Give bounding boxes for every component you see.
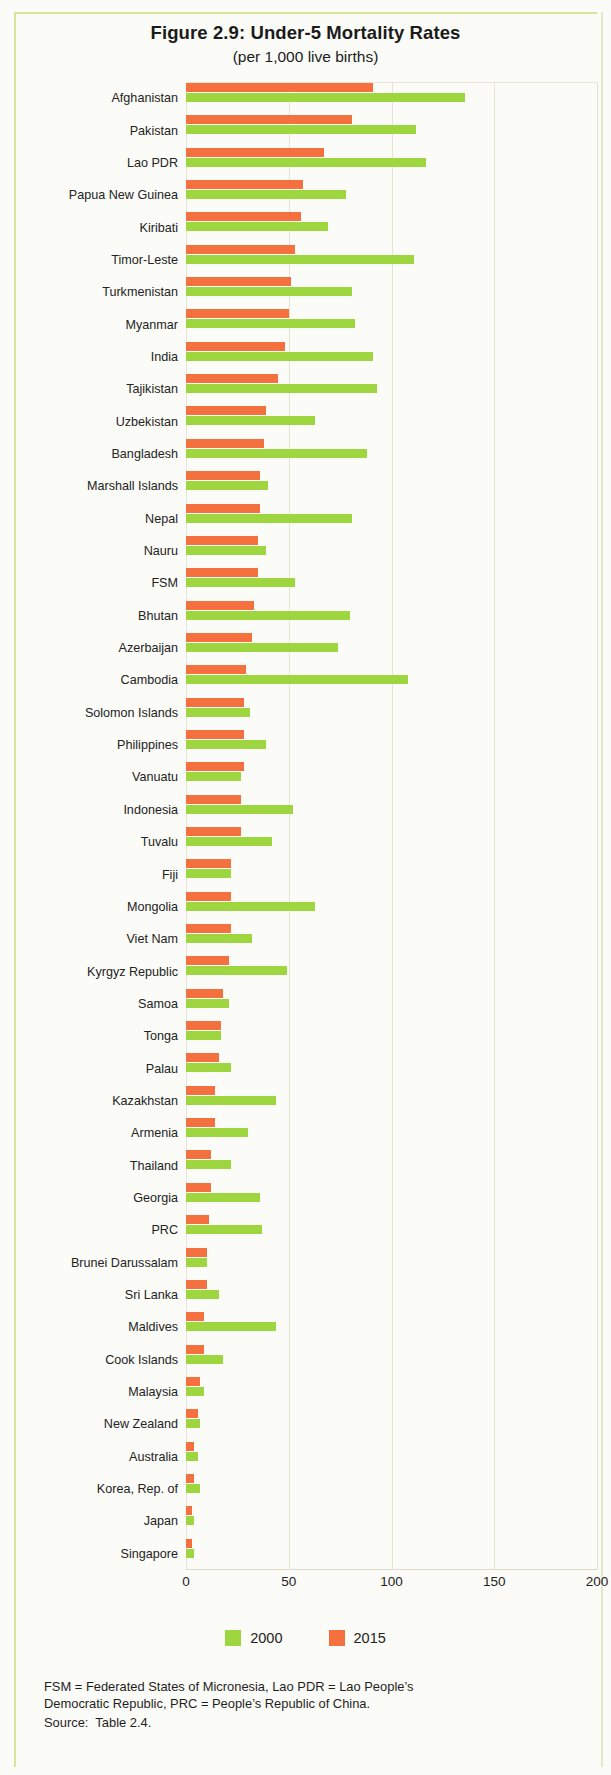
category-label: Nauru (0, 545, 178, 557)
bar-2000 (186, 643, 338, 652)
bar-2000 (186, 1549, 194, 1558)
category-label: Myanmar (0, 319, 178, 331)
bar-row (186, 923, 597, 955)
bar-2015 (186, 665, 246, 674)
figure-title: Figure 2.9: Under-5 Mortality Rates (0, 22, 611, 44)
bar-row (186, 1311, 597, 1343)
bar-2015 (186, 827, 241, 836)
bar-2015 (186, 309, 289, 318)
category-label: Malaysia (0, 1386, 178, 1398)
category-label: Tajikistan (0, 383, 178, 395)
bar-2000 (186, 740, 266, 749)
bar-2000 (186, 1452, 198, 1461)
bar-2000 (186, 287, 352, 296)
bar-2015 (186, 762, 244, 771)
category-label: Kazakhstan (0, 1095, 178, 1107)
category-label: Japan (0, 1515, 178, 1527)
bar-row (186, 1149, 597, 1181)
bar-row (186, 1020, 597, 1052)
bar-2015 (186, 1409, 198, 1418)
bar-row (186, 82, 597, 114)
category-label: Kiribati (0, 222, 178, 234)
category-label: Fiji (0, 869, 178, 881)
bar-row (186, 1344, 597, 1376)
category-label: FSM (0, 577, 178, 589)
bar-2000 (186, 449, 367, 458)
bar-2000 (186, 966, 287, 975)
category-label: Nepal (0, 513, 178, 525)
category-label: Tonga (0, 1030, 178, 1042)
bar-2015 (186, 342, 285, 351)
bar-2000 (186, 352, 373, 361)
category-label: Armenia (0, 1127, 178, 1139)
bar-2015 (186, 471, 260, 480)
footnote-line-2: Democratic Republic, PRC = People’s Repu… (44, 1695, 581, 1712)
bar-row (186, 1085, 597, 1117)
bar-row (186, 567, 597, 599)
bar-2015 (186, 859, 231, 868)
x-tick-100: 100 (380, 1574, 403, 1589)
bar-2015 (186, 504, 260, 513)
legend-item-2015[interactable]: 2015 (329, 1630, 386, 1646)
bar-2000 (186, 1225, 262, 1234)
legend-item-2000[interactable]: 2000 (225, 1630, 282, 1646)
bar-2015 (186, 1150, 211, 1159)
category-label: Indonesia (0, 804, 178, 816)
bar-2015 (186, 536, 258, 545)
bar-row (186, 470, 597, 502)
bar-2000 (186, 1096, 276, 1105)
chart-legend: 20002015 (0, 1630, 611, 1646)
category-label: Marshall Islands (0, 480, 178, 492)
figure-heading: Figure 2.9: Under-5 Mortality Rates (per… (0, 22, 611, 67)
bar-2015 (186, 568, 258, 577)
bar-2015 (186, 1345, 204, 1354)
figure-subtitle: (per 1,000 live births) (0, 48, 611, 67)
category-label: Korea, Rep. of (0, 1483, 178, 1495)
legend-swatch-icon (225, 1630, 241, 1646)
bar-2015 (186, 698, 244, 707)
category-label: Thailand (0, 1160, 178, 1172)
bar-2015 (186, 956, 229, 965)
bar-rows (186, 82, 597, 1570)
category-label: Azerbaijan (0, 642, 178, 654)
category-label: Sri Lanka (0, 1289, 178, 1301)
bar-row (186, 1473, 597, 1505)
bar-row (186, 503, 597, 535)
bar-2015 (186, 1442, 194, 1451)
bar-2000 (186, 481, 268, 490)
bar-row (186, 632, 597, 664)
bar-2015 (186, 277, 291, 286)
bar-row (186, 761, 597, 793)
value-axis: 050100150200 (186, 1574, 597, 1596)
bar-2015 (186, 1539, 192, 1548)
bar-2000 (186, 1419, 200, 1428)
bar-row (186, 1247, 597, 1279)
bar-row (186, 1441, 597, 1473)
category-label: Bangladesh (0, 448, 178, 460)
bar-row (186, 988, 597, 1020)
category-label: Cambodia (0, 674, 178, 686)
bar-row (186, 211, 597, 243)
bar-2015 (186, 924, 231, 933)
category-label: Samoa (0, 998, 178, 1010)
bar-2000 (186, 546, 266, 555)
bar-row (186, 535, 597, 567)
plot-bottom-rule (186, 1569, 597, 1570)
category-label: Papua New Guinea (0, 189, 178, 201)
bar-2015 (186, 115, 352, 124)
bar-2000 (186, 708, 250, 717)
bar-row (186, 1182, 597, 1214)
bar-2015 (186, 601, 254, 610)
category-label: Georgia (0, 1192, 178, 1204)
bar-2000 (186, 869, 231, 878)
bar-2015 (186, 1021, 221, 1030)
bar-2000 (186, 1322, 276, 1331)
bar-row (186, 438, 597, 470)
category-label: Cook Islands (0, 1354, 178, 1366)
bar-2000 (186, 578, 295, 587)
bar-2015 (186, 1118, 215, 1127)
category-label: Singapore (0, 1548, 178, 1560)
bar-row (186, 244, 597, 276)
bar-2000 (186, 999, 229, 1008)
category-label: PRC (0, 1224, 178, 1236)
